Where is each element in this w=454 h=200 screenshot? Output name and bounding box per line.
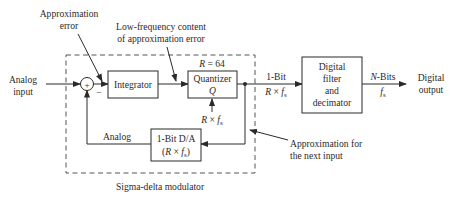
quantizer-clock-label: R × fs [200,114,223,127]
dac-label-line1: 1-Bit D/A [157,133,196,144]
minus-sign: − [96,87,101,98]
quantizer-block: R = 64 Quantizer Q R × fs [188,58,237,127]
n-bits-rate: fs [380,86,386,99]
integrator-block: Integrator [108,71,158,98]
digital-output: Digital output [418,72,445,95]
one-bit-signal-label: 1-Bit R × fs [264,71,287,99]
modulator-caption: Sigma-delta modulator [116,181,205,192]
low-frequency-line1: Low-frequency content [116,21,206,32]
filter-line2: filter [323,73,342,84]
approximation-next-line2: the next input [290,150,343,161]
low-frequency-line2: of approximation error [117,33,205,44]
approximation-next-pointer [250,130,288,140]
approximation-error-line2: error [60,20,79,31]
integrator-label: Integrator [114,79,153,90]
approximation-error-line1: Approximation [40,8,99,19]
approximation-error-pointer [78,34,102,81]
analog-feedback-label: Analog [103,131,131,142]
oversampling-ratio-label: R = 64 [198,58,225,69]
summing-junction: + − [81,78,102,99]
low-frequency-pointer [167,47,176,81]
digital-filter-block: Digital filter and decimator [302,57,362,113]
quantizer-label: Quantizer [194,73,233,84]
filter-line3: and [325,85,339,96]
approximation-next-input-annotation: Approximation for the next input [250,130,363,161]
analog-input-line2: input [13,86,33,97]
digital-output-line2: output [419,84,444,95]
analog-input: Analog input [9,74,80,97]
digital-output-line1: Digital [418,72,445,83]
n-bits-label: N-Bits [369,71,395,82]
one-bit-rate: R × fs [264,86,287,99]
sigma-delta-block-diagram: Approximation error Low-frequency conten… [0,0,454,200]
approximation-next-line1: Approximation for [290,138,363,149]
analog-input-line1: Analog [9,74,37,85]
one-bit-label: 1-Bit [266,71,286,82]
filter-line4: decimator [313,97,352,108]
plus-sign: + [84,80,89,90]
dac-block: 1-Bit D/A (R × fs) [151,129,201,161]
quantizer-symbol: Q [209,85,216,96]
filter-line1: Digital [319,61,346,72]
n-bits-signal-label: N-Bits fs [369,71,395,99]
approximation-error-annotation: Approximation error [40,8,102,81]
